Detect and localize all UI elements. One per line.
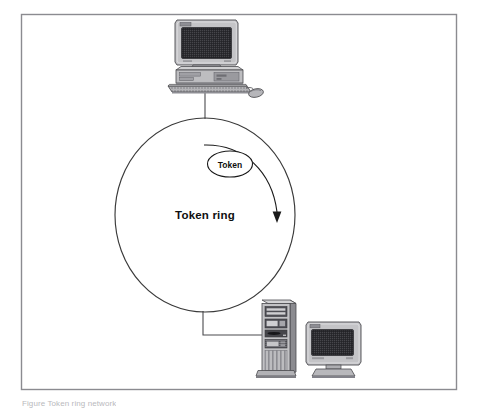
tower-eject-button-icon [283, 335, 286, 336]
tower-drive-bay-1-face [267, 308, 286, 310]
case-drive-bay-1 [180, 73, 201, 77]
monitor-power-led-icon [224, 60, 231, 62]
tower-base-shadow [256, 376, 296, 378]
token-ring-diagram: Token Token ring [0, 0, 480, 410]
keyboard-front-edge [172, 92, 251, 93]
token-ellipse: Token [208, 151, 253, 177]
figure-root: Token Token ring [0, 0, 480, 410]
tower-base [256, 371, 296, 377]
tower-vent-ribs [265, 351, 287, 371]
workstation-keyboard [168, 84, 251, 93]
monitor-screen [182, 28, 232, 59]
server-monitor-power-led-icon [346, 357, 353, 359]
monitor-oem-badge-icon [180, 22, 191, 26]
case-power-button-icon [217, 78, 222, 80]
figure-caption: Figure Token ring network [22, 399, 116, 410]
keyboard-keys [168, 86, 251, 92]
server-monitor-neck [326, 365, 341, 369]
server-monitor-stand [312, 369, 355, 376]
tower-top-face [262, 300, 296, 304]
tower-power-button-icon [281, 341, 286, 343]
tower-drive-bay-3-face [267, 321, 278, 326]
server-tower [256, 300, 296, 378]
server-monitor-screen [312, 330, 354, 356]
case-top-face [176, 67, 243, 71]
tower-optical-slot-icon [268, 332, 281, 335]
workstation-monitor [175, 20, 238, 70]
case-drive-bay-2 [180, 78, 194, 81]
keyboard-top-edge [168, 84, 247, 86]
server-monitor-oem-badge-icon [310, 324, 320, 327]
server-monitor-button-row-icon [312, 357, 324, 359]
tower-reset-button-icon [281, 344, 286, 346]
tower-drive-bay-2-face [267, 312, 286, 314]
monitor-button-row-icon [183, 60, 192, 62]
tower-drive-led-icon [280, 321, 286, 326]
workstation-case [176, 67, 243, 85]
tower-side-face [290, 300, 296, 375]
case-floppy-slot-icon [217, 75, 227, 77]
tower-control-display-icon [267, 341, 279, 346]
token-ring-label: Token ring [175, 209, 235, 221]
token-label: Token [218, 160, 242, 170]
tower-drive-bay-1 [265, 307, 287, 317]
server-monitor-stand-shadow [312, 376, 355, 378]
